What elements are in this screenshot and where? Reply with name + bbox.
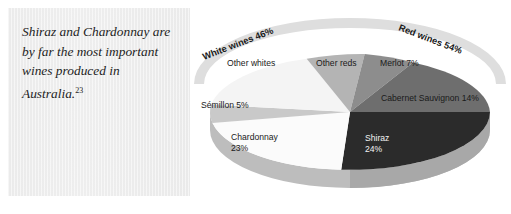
label-shiraz: Shiraz	[365, 133, 389, 143]
pie-slices	[210, 54, 490, 170]
footnote-marker: 23	[75, 86, 83, 95]
pull-quote-panel: Shiraz and Chardonnay are by far the mos…	[8, 8, 190, 196]
label-other-whites: Other whites	[227, 58, 275, 68]
pie-chart-svg: White wines 46% Red wines 54% Other whit…	[190, 0, 511, 214]
value-shiraz: 24%	[365, 144, 383, 154]
pull-quote-text: Shiraz and Chardonnay are by far the mos…	[22, 22, 176, 103]
label-other-reds: Other reds	[316, 58, 357, 68]
group-label-white-wines: White wines 46%	[201, 25, 275, 61]
label-cabernet-sauvignon: Cabernet Sauvignon 14%	[381, 93, 479, 103]
label-chardonnay: Chardonnay	[231, 132, 279, 142]
value-chardonnay: 23%	[231, 143, 249, 153]
label-merlot: Merlot 7%	[380, 58, 419, 68]
pie-chart: White wines 46% Red wines 54% Other whit…	[190, 0, 511, 214]
label-semillon: Sémillon 5%	[201, 100, 249, 110]
pull-quote-sentence: Shiraz and Chardonnay are by far the mos…	[22, 24, 170, 101]
